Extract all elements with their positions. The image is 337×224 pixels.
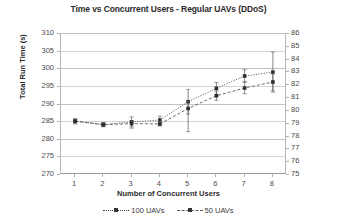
x-axis-tick-mark [272, 174, 273, 177]
y-axis-left-tick-label: 285 [24, 117, 54, 125]
legend-swatch-icon [177, 207, 203, 214]
legend-label: 100 UAVs [131, 206, 164, 215]
data-point-marker [186, 107, 190, 111]
y-axis-right-tick-mark [286, 97, 289, 98]
y-axis-left-tick-mark [57, 156, 60, 157]
x-axis-title: Number of Concurrent Users [0, 189, 337, 198]
y-axis-left-tick-label: 295 [24, 82, 54, 90]
y-axis-right-tick-label: 80 [291, 106, 315, 114]
y-axis-left-tick-mark [57, 68, 60, 69]
y-axis-left-tick-label: 290 [24, 100, 54, 108]
y-axis-left-tick-mark [57, 104, 60, 105]
data-point-marker [73, 119, 77, 123]
x-axis-tick-label: 5 [177, 179, 197, 188]
plot-area [60, 33, 286, 174]
data-point-marker [130, 122, 134, 126]
data-point-marker [158, 122, 162, 126]
y-axis-left-tick-label: 275 [24, 152, 54, 160]
x-axis-tick-mark [102, 174, 103, 177]
y-axis-right-tick-mark [286, 71, 289, 72]
data-point-marker [243, 86, 247, 90]
series-2 [73, 74, 275, 132]
legend-entry-2[interactable]: 50 UAVs [177, 205, 234, 215]
y-axis-left-tick-label: 305 [24, 47, 54, 55]
series-line [75, 72, 273, 125]
y-axis-right-tick-mark [286, 161, 289, 162]
legend-entry-1[interactable]: 100 UAVs [103, 205, 164, 215]
y-axis-right-tick-mark [286, 148, 289, 149]
chart-legend: 100 UAVs50 UAVs [0, 205, 337, 215]
x-axis-tick-label: 8 [262, 179, 282, 188]
x-axis-tick-label: 2 [92, 179, 112, 188]
y-axis-right-tick-mark [286, 46, 289, 47]
y-axis-left-tick-mark [57, 86, 60, 87]
x-axis-tick-mark [187, 174, 188, 177]
x-axis-tick-mark [215, 174, 216, 177]
x-axis-tick-label: 7 [234, 179, 254, 188]
y-axis-right-tick-mark [286, 33, 289, 34]
data-point-marker [215, 94, 219, 98]
x-axis-tick-label: 3 [121, 179, 141, 188]
y-axis-right-tick-label: 75 [291, 170, 315, 178]
y-axis-right-tick-label: 78 [291, 132, 315, 140]
y-axis-right-tick-label: 81 [291, 93, 315, 101]
x-axis-tick-label: 1 [64, 179, 84, 188]
y-axis-right-tick-label: 84 [291, 55, 315, 63]
y-axis-left-tick-label: 300 [24, 64, 54, 72]
data-point-marker [215, 87, 219, 91]
y-axis-right-tick-label: 76 [291, 157, 315, 165]
y-axis-left-tick-mark [57, 51, 60, 52]
y-axis-left-tick-mark [57, 33, 60, 34]
data-point-marker [271, 70, 275, 74]
x-axis-tick-mark [244, 174, 245, 177]
x-axis-tick-label: 4 [149, 179, 169, 188]
y-axis-right-tick-label: 77 [291, 144, 315, 152]
y-axis-right-tick-label: 83 [291, 67, 315, 75]
data-point-marker [102, 123, 106, 127]
y-axis-left-tick-label: 310 [24, 29, 54, 37]
y-axis-left-tick-label: 270 [24, 170, 54, 178]
y-axis-left-tick-mark [57, 174, 60, 175]
y-axis-left-tick-mark [57, 139, 60, 140]
x-axis-tick-mark [159, 174, 160, 177]
chart-title: Time vs Concurrent Users - Regular UAVs … [0, 4, 337, 14]
data-point-marker [271, 80, 275, 84]
series-layer [61, 33, 287, 174]
y-axis-right-tick-label: 82 [291, 80, 315, 88]
y-axis-right-tick-label: 79 [291, 119, 315, 127]
x-axis-tick-mark [131, 174, 132, 177]
y-axis-right-tick-label: 86 [291, 29, 315, 37]
y-axis-left-tick-label: 280 [24, 135, 54, 143]
y-axis-right-tick-mark [286, 123, 289, 124]
legend-label: 50 UAVs [205, 206, 234, 215]
data-point-marker [243, 74, 247, 78]
chart-container: Time vs Concurrent Users - Regular UAVs … [0, 0, 337, 224]
y-axis-right-tick-mark [286, 59, 289, 60]
x-axis-tick-mark [74, 174, 75, 177]
y-axis-right-tick-mark [286, 174, 289, 175]
y-axis-right-tick-label: 85 [291, 42, 315, 50]
y-axis-right-tick-mark [286, 110, 289, 111]
x-axis-tick-label: 6 [205, 179, 225, 188]
y-axis-right-tick-mark [286, 136, 289, 137]
y-axis-right-tick-mark [286, 84, 289, 85]
legend-swatch-icon [103, 207, 129, 214]
y-axis-left-tick-mark [57, 121, 60, 122]
